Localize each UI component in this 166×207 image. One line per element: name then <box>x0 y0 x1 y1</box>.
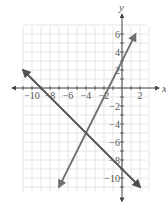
y-tick-label: 4 <box>115 47 120 58</box>
x-tick-label: 2 <box>138 90 143 101</box>
x-axis-label: x <box>161 82 166 94</box>
y-tick-label: −4 <box>109 119 120 130</box>
coordinate-plane: −10−8−6−4−22642−2−4−6−8−10xy <box>0 0 166 207</box>
line-rising <box>59 34 136 187</box>
x-tick-label: −6 <box>63 90 74 101</box>
grid <box>23 25 149 192</box>
x-tick-label: −4 <box>81 90 92 101</box>
y-tick-label: 6 <box>115 29 120 40</box>
x-tick-label: −8 <box>45 90 56 101</box>
y-tick-label: −10 <box>104 173 120 184</box>
x-tick-label: −10 <box>24 90 40 101</box>
y-axis-label: y <box>118 1 124 13</box>
y-tick-label: −6 <box>109 137 120 148</box>
y-tick-label: −2 <box>109 101 120 112</box>
